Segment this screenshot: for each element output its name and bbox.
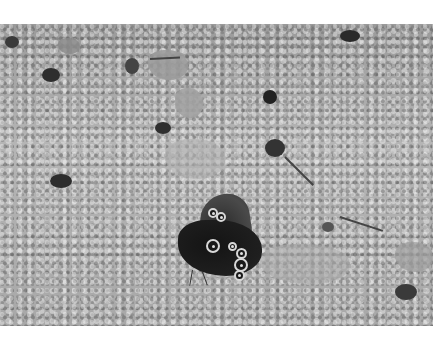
pebble [260, 244, 350, 284]
debris-clump [340, 30, 360, 42]
butterfly-leg [202, 272, 208, 285]
pebble [175, 88, 203, 118]
photograph [0, 24, 433, 326]
eyespot [234, 270, 245, 281]
debris-clump [42, 68, 60, 82]
butterfly-leg [189, 270, 193, 286]
debris-clump [263, 90, 277, 104]
twig [284, 156, 314, 186]
debris-clump [5, 36, 19, 48]
butterfly-hindwing [178, 220, 262, 276]
eyespot [228, 242, 237, 251]
pebble [395, 242, 433, 272]
debris-clump [265, 139, 285, 157]
debris-clump [155, 122, 171, 134]
debris-clump [395, 284, 417, 300]
debris-clump [50, 174, 72, 188]
pebble [58, 38, 80, 54]
pebble [165, 139, 225, 179]
pebble [148, 50, 188, 80]
eyespot [206, 239, 220, 253]
twig [340, 216, 383, 232]
eyespot [216, 212, 226, 222]
debris-clump [322, 222, 334, 232]
butterfly [178, 194, 262, 284]
debris-clump [125, 58, 139, 74]
